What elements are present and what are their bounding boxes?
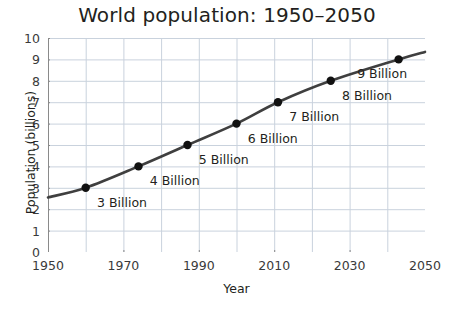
- x-tick-label: 2010: [258, 258, 290, 273]
- x-tick-label: 2050: [409, 258, 441, 273]
- point-annotation-label: 9 Billion: [357, 66, 407, 81]
- point-annotation-label: 8 Billion: [342, 87, 392, 102]
- plot-area: 3 Billion4 Billion5 Billion6 Billion7 Bi…: [48, 38, 425, 252]
- x-axis-title: Year: [48, 281, 425, 296]
- population-line-chart: World population: 1950–2050 012345678910…: [0, 0, 454, 310]
- data-point-marker[interactable]: [183, 141, 191, 149]
- x-tick-label: 1990: [183, 258, 215, 273]
- data-point-marker[interactable]: [274, 98, 282, 106]
- x-tick-label: 2030: [334, 258, 366, 273]
- data-point-marker[interactable]: [134, 162, 142, 170]
- point-annotation-label: 6 Billion: [248, 130, 298, 145]
- point-annotation-label: 5 Billion: [199, 151, 249, 166]
- data-point-marker[interactable]: [327, 77, 335, 85]
- y-tick-label: 10: [24, 31, 40, 46]
- point-annotation-label: 3 Billion: [97, 194, 147, 209]
- point-annotation-label: 7 Billion: [289, 109, 339, 124]
- x-tick-label: 1950: [32, 258, 64, 273]
- point-annotation-label: 4 Billion: [150, 173, 200, 188]
- x-tick-label: 1970: [107, 258, 139, 273]
- data-point-marker[interactable]: [82, 184, 90, 192]
- chart-title: World population: 1950–2050: [0, 3, 454, 27]
- data-point-marker[interactable]: [232, 119, 240, 127]
- y-axis-title: Population (billions): [23, 58, 38, 248]
- data-point-marker[interactable]: [394, 55, 402, 63]
